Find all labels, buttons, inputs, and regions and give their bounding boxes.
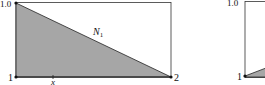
n2-shape-function-area: [245, 68, 265, 77]
right-node-1-label: 1: [237, 71, 242, 82]
left-shape-function-panel: 1.0 1 2 N1 x: [0, 0, 179, 85]
right-node-1-dot: [243, 74, 246, 77]
node-2-dot: [169, 75, 172, 78]
top-left-dot: [14, 1, 17, 4]
y-top-label: 1.0: [0, 0, 12, 9]
n1-shape-function-area: [16, 3, 171, 77]
node-2-label: 2: [174, 72, 179, 83]
x-axis-label: x: [50, 77, 55, 85]
right-shape-function-panel: 1.0 1: [227, 0, 265, 82]
shape-function-figure: 1.0 1 2 N1 x 1.0 1: [0, 0, 265, 85]
node-1-dot: [14, 75, 17, 78]
node-1-label: 1: [8, 72, 13, 83]
n1-label: N1: [92, 26, 104, 39]
right-y-top-label: 1.0: [227, 0, 239, 8]
right-panel-frame: [245, 2, 265, 78]
